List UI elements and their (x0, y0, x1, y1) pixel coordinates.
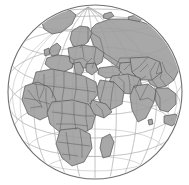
globe-figure: Orthographic globe (0, 0, 189, 185)
globe-svg (0, 0, 189, 185)
land-sri-lanka (148, 119, 153, 125)
